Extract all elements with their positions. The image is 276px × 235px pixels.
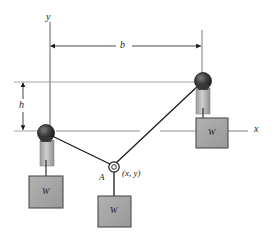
right-pulley bbox=[195, 73, 212, 115]
pulley-system-diagram bbox=[0, 0, 276, 235]
node-a-label: A bbox=[99, 173, 105, 182]
right-weight-label: W bbox=[208, 128, 216, 137]
node-a-ring bbox=[109, 162, 119, 172]
cable-lines bbox=[48, 84, 200, 196]
figure-canvas: y x b h A (x, y) W W W bbox=[0, 0, 276, 235]
dimension-h-label: h bbox=[19, 100, 24, 110]
left-weight-label: W bbox=[42, 187, 50, 196]
dimension-b-label: b bbox=[120, 40, 125, 50]
node-coordinate-label: (x, y) bbox=[122, 169, 140, 178]
center-weight-label: W bbox=[110, 206, 118, 215]
left-pulley bbox=[38, 125, 55, 167]
x-axis-label: x bbox=[254, 124, 258, 134]
extension-lines bbox=[14, 82, 200, 131]
y-axis-label: y bbox=[46, 12, 50, 22]
